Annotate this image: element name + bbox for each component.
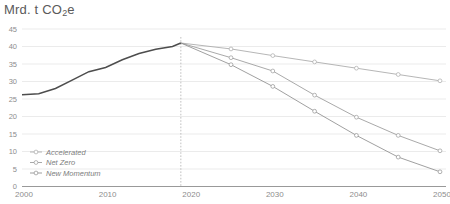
series-marker: [396, 134, 400, 138]
series-marker: [271, 85, 275, 89]
series-marker: [313, 93, 317, 97]
series-marker: [271, 54, 275, 58]
x-tick-label: 2010: [99, 190, 117, 199]
series-marker: [313, 60, 317, 64]
x-tick-label: 2050: [433, 190, 450, 199]
y-tick-label: 20: [9, 112, 17, 121]
series-line: [181, 43, 440, 172]
x-tick-label: 2030: [266, 190, 284, 199]
series-marker: [355, 134, 359, 138]
series-marker: [229, 63, 233, 67]
y-tick-label: 45: [9, 25, 17, 34]
y-tick-label: 35: [9, 60, 17, 69]
series-markers: [229, 47, 442, 174]
chart-plot-area: 051015202530354045 200020102020203020402…: [0, 0, 450, 204]
series-line: [181, 43, 440, 151]
series-marker: [438, 79, 442, 83]
series-marker: [229, 56, 233, 60]
series-marker: [355, 66, 359, 70]
series-line: [181, 43, 440, 81]
legend-swatch-marker: [34, 161, 38, 165]
y-tick-label: 10: [9, 147, 17, 156]
x-axis-tick-labels: 200020102020203020402050: [15, 190, 450, 199]
x-tick-label: 2040: [350, 190, 368, 199]
x-tick-label: 2020: [182, 190, 200, 199]
series-lines: [181, 43, 440, 172]
series-marker: [313, 109, 317, 113]
y-tick-label: 25: [9, 95, 17, 104]
y-tick-label: 40: [9, 42, 17, 51]
series-marker: [271, 69, 275, 73]
x-tick-label: 2000: [15, 190, 33, 199]
legend-label: New Momentum: [46, 169, 101, 178]
series-marker: [396, 155, 400, 159]
legend-swatch-marker: [34, 150, 38, 154]
y-tick-label: 30: [9, 77, 17, 86]
historical-line-path: [22, 43, 181, 95]
chart-container: Mrd. t CO2e 051015202530354045 200020102…: [0, 0, 450, 204]
series-marker: [355, 115, 359, 119]
series-marker: [229, 47, 233, 51]
y-tick-label: 5: [13, 165, 17, 174]
legend-label: Net Zero: [46, 158, 75, 167]
chart-legend: AcceleratedNet ZeroNew Momentum: [30, 148, 101, 178]
historical-line: [22, 43, 181, 95]
legend-swatch-marker: [34, 171, 38, 175]
legend-label: Accelerated: [45, 148, 86, 157]
y-axis-tick-labels: 051015202530354045: [9, 25, 17, 192]
series-marker: [438, 170, 442, 174]
series-marker: [396, 73, 400, 77]
series-marker: [438, 149, 442, 153]
y-tick-label: 15: [9, 130, 17, 139]
